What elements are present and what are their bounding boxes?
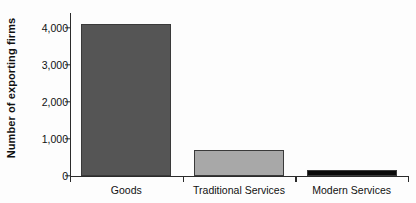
bar-goods (81, 24, 171, 176)
x-category-label: Traditional Services (193, 184, 285, 196)
x-axis-line (70, 176, 408, 177)
y-axis-title-text: Number of exporting firms (5, 18, 17, 159)
bar-chart: Number of exporting firms 01,0002,0003,0… (0, 0, 416, 203)
x-tick-mark (295, 176, 296, 182)
x-tick-mark (408, 176, 409, 182)
x-category-label: Goods (111, 184, 142, 196)
y-axis-line (70, 13, 71, 177)
x-category-label: Modern Services (312, 184, 391, 196)
x-tick-mark (183, 176, 184, 182)
y-axis-title: Number of exporting firms (0, 0, 22, 176)
y-tick-label: 0 (22, 170, 68, 182)
x-tick-mark (70, 176, 71, 182)
bar-traditional-services (194, 150, 284, 176)
y-tick-label: 2,000 (22, 96, 68, 108)
y-tick-label: 4,000 (22, 22, 68, 34)
bar-modern-services (307, 170, 397, 176)
y-tick-label: 1,000 (22, 133, 68, 145)
y-tick-label: 3,000 (22, 59, 68, 71)
